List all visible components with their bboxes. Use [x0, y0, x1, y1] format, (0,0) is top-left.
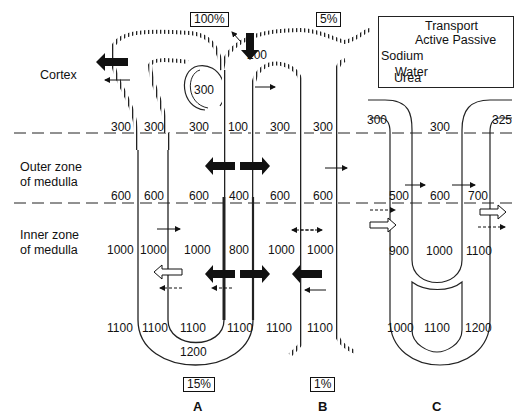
a-val-1100-1: 1100 — [107, 322, 133, 335]
b-val-600-1: 600 — [270, 190, 290, 203]
zone-outer-line1: Outer zone — [20, 160, 82, 175]
zone-cortex: Cortex — [40, 68, 77, 83]
c-val-bottom-3: 1200 — [465, 322, 492, 335]
b-val-600-2: 600 — [313, 190, 333, 203]
a-val-600-4: 400 — [229, 190, 249, 203]
b-val-1100-2: 1100 — [307, 322, 333, 335]
a-val-1100-2: 1100 — [142, 322, 168, 335]
b-val-1100-1: 1100 — [266, 322, 292, 335]
panel-b-top-percent: 5% — [316, 12, 341, 27]
b-val-1000-2: 1000 — [307, 244, 334, 257]
dct-value: 200 — [247, 49, 267, 62]
panel-b-label: B — [318, 399, 327, 414]
a-val-300-4: 100 — [228, 121, 248, 134]
c-val-mid-2: 600 — [430, 190, 450, 203]
panel-b-bottom-percent: 1% — [310, 377, 335, 392]
panel-b-collecting-duct — [290, 60, 355, 355]
legend-header-active-passive: Active Passive — [415, 33, 496, 47]
c-val-bottom-1: 1000 — [387, 322, 414, 335]
b-val-300-1: 300 — [270, 121, 290, 134]
c-val-mid-1: 500 — [389, 190, 409, 203]
c-val-inner-2: 1000 — [426, 245, 453, 258]
zone-outer-line2: of medulla — [20, 175, 78, 190]
c-val-mid-3: 700 — [468, 190, 488, 203]
a-val-600-1: 600 — [111, 190, 131, 203]
a-val-300-2: 300 — [144, 121, 164, 134]
c-val-inner-3: 1100 — [466, 245, 492, 258]
c-val-bottom-2: 1100 — [424, 322, 450, 335]
a-val-1100-3: 1100 — [180, 322, 206, 335]
c-val-inner-1: 900 — [389, 245, 409, 258]
c-val-top-3: 325 — [492, 114, 512, 127]
legend-header-transport: Transport — [425, 19, 478, 33]
panel-a-label: A — [193, 399, 202, 414]
a-val-600-3: 600 — [189, 190, 209, 203]
a-val-600-2: 600 — [144, 190, 164, 203]
b-val-300-2: 300 — [313, 121, 333, 134]
panel-a-top-percent: 100% — [190, 12, 229, 27]
zone-inner-line1: Inner zone — [20, 228, 79, 243]
a-loop-tip-value: 1200 — [180, 346, 207, 359]
a-val-1000-3: 1000 — [184, 244, 211, 257]
a-val-300-1: 300 — [111, 121, 131, 134]
a-val-1100-4: 1100 — [227, 322, 253, 335]
panel-a-bottom-percent: 15% — [183, 377, 215, 392]
c-val-top-2: 300 — [430, 121, 450, 134]
glomerulus-value: 300 — [194, 84, 214, 97]
legend-urea-label: Urea — [394, 72, 421, 85]
a-val-1000-1: 1000 — [107, 244, 134, 257]
c-val-top-1: 300 — [367, 114, 387, 127]
a-val-300-3: 300 — [189, 121, 209, 134]
zone-inner-line2: of medulla — [20, 243, 78, 258]
legend-sodium-label: Sodium — [381, 49, 423, 63]
panel-c-label: C — [432, 399, 441, 414]
b-val-1000-1: 1000 — [268, 244, 295, 257]
a-val-1000-2: 1000 — [140, 244, 167, 257]
a-val-800: 800 — [229, 244, 249, 257]
sodium-passive-arrows — [154, 205, 506, 279]
